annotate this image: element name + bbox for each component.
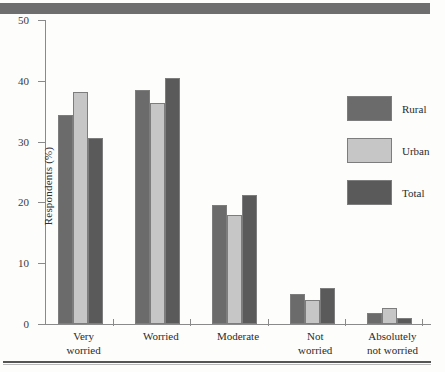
legend-swatch-total — [347, 180, 392, 205]
bar-rural-1 — [135, 90, 150, 324]
legend-item-total: Total — [347, 180, 430, 205]
category-label-3: Not worried — [271, 329, 360, 357]
x-tick-4 — [422, 319, 423, 326]
bar-urban-1 — [150, 103, 165, 324]
bar-rural-3 — [290, 294, 305, 324]
legend-swatch-rural — [347, 96, 392, 121]
bar-urban-0 — [73, 92, 88, 324]
category-label-2: Moderate — [193, 329, 282, 343]
bar-urban-2 — [227, 215, 242, 324]
y-tick-label-0: 0 — [24, 318, 30, 330]
footer-rule-shadow — [3, 364, 431, 365]
y-axis-title: Respondents (%) — [42, 147, 54, 225]
x-tick-1 — [190, 319, 191, 326]
y-tick-label-40: 40 — [18, 75, 29, 87]
bar-urban-3 — [305, 300, 320, 324]
page-header-band — [0, 3, 430, 14]
bar-total-3 — [320, 288, 335, 324]
y-tick-0: 0 — [38, 324, 46, 325]
bar-rural-2 — [212, 205, 227, 324]
x-tick-3 — [345, 319, 346, 326]
bar-group — [290, 288, 335, 324]
y-tick-label-10: 10 — [18, 257, 29, 269]
category-label-0: Very worried — [39, 329, 128, 357]
x-tick-0 — [113, 319, 114, 326]
y-tick-30: 30 — [38, 142, 46, 143]
y-tick-10: 10 — [38, 263, 46, 264]
bar-rural-4 — [367, 313, 382, 324]
category-label-4: Absolutely not worried — [348, 329, 437, 357]
bar-urban-4 — [382, 308, 397, 324]
bar-group — [135, 78, 180, 324]
y-tick-label-20: 20 — [18, 196, 29, 208]
bar-group — [367, 308, 412, 324]
bar-total-2 — [242, 195, 257, 324]
legend-label-rural: Rural — [402, 103, 426, 115]
legend-label-total: Total — [402, 187, 424, 199]
legend-swatch-urban — [347, 138, 392, 163]
y-tick-40: 40 — [38, 81, 46, 82]
y-tick-label-30: 30 — [18, 136, 29, 148]
legend-item-rural: Rural — [347, 96, 430, 121]
y-tick-label-50: 50 — [18, 14, 29, 26]
legend-label-urban: Urban — [402, 145, 430, 157]
x-tick-2 — [268, 319, 269, 326]
chart-legend: RuralUrbanTotal — [347, 96, 430, 222]
bar-group — [58, 92, 103, 324]
bar-rural-0 — [58, 115, 73, 324]
category-label-1: Worried — [116, 329, 205, 343]
bar-group — [212, 195, 257, 324]
y-tick-50: 50 — [38, 20, 46, 21]
bar-chart-figure: 01020304050 Very worriedWorriedModerateN… — [0, 0, 445, 372]
footer-rule — [3, 361, 431, 363]
bar-total-1 — [165, 78, 180, 324]
x-axis-line — [45, 324, 431, 325]
bar-total-4 — [397, 318, 412, 324]
legend-item-urban: Urban — [347, 138, 430, 163]
bar-total-0 — [88, 138, 103, 324]
